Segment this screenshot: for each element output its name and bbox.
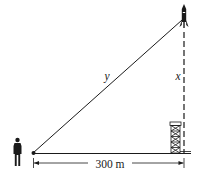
hypotenuse-line <box>33 20 182 153</box>
rocket-icon <box>180 4 189 28</box>
hypotenuse-label: y <box>103 70 110 83</box>
person-icon <box>14 138 22 166</box>
observer-point <box>32 151 36 155</box>
launch-tower-icon <box>170 122 181 153</box>
rocket-diagram: 300 m y x <box>0 0 201 177</box>
altitude-label: x <box>174 70 181 82</box>
distance-label: 300 m <box>95 158 124 170</box>
